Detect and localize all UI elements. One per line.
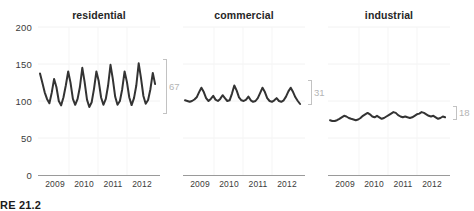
y-tick-label-0: 0 [27,171,32,181]
panel-title-commercial: commercial [183,9,305,21]
x-axis-residential: 2009 2010 2011 2012 [38,175,160,191]
gridlines-residential [38,27,160,175]
panel-commercial: commercial 2009 2010 2011 2012 [183,0,305,190]
y-axis: 200 150 100 50 0 [0,0,36,190]
x-tick-label-residential-2010: 2010 [74,179,94,189]
plot-area-residential [38,27,160,175]
y-tick-label-50: 50 [21,134,32,144]
x-axis-line-residential [38,175,160,176]
x-tick-label-residential-2011: 2011 [103,179,122,189]
x-axis-industrial: 2009 2010 2011 2012 [328,175,450,191]
range-value-commercial: 31 [314,88,325,98]
x-tick-label-industrial-2011: 2011 [393,179,412,189]
range-value-residential: 67 [169,82,180,92]
panel-industrial: industrial 2009 2010 2011 2012 [328,0,450,190]
x-axis-line-industrial [328,175,450,176]
panel-title-residential: residential [38,9,160,21]
x-tick-label-commercial-2011: 2011 [248,179,267,189]
chart-svg-industrial [328,27,450,175]
y-tick-label-150: 150 [16,60,32,70]
range-value-industrial: 18 [459,108,470,118]
x-axis-commercial: 2009 2010 2011 2012 [183,175,305,191]
panel-title-industrial: industrial [328,9,450,21]
plot-area-industrial [328,27,450,175]
y-tick-label-200: 200 [16,23,32,33]
chart-svg-residential [38,27,160,175]
plot-area-commercial [183,27,305,175]
figure-small-multiples: 200 150 100 50 0 residential [0,0,474,211]
x-tick-label-commercial-2009: 2009 [190,179,210,189]
x-tick-label-commercial-2012: 2012 [277,179,297,189]
x-tick-label-commercial-2010: 2010 [219,179,239,189]
range-bracket-industrial [453,106,457,120]
x-tick-label-industrial-2009: 2009 [335,179,355,189]
x-axis-line-commercial [183,175,305,176]
range-bracket-commercial [308,80,312,105]
chart-svg-commercial [183,27,305,175]
range-bracket-residential [163,59,167,114]
x-tick-label-residential-2012: 2012 [132,179,152,189]
panel-residential: residential 2009 2010 2011 2012 [38,0,160,190]
figure-caption: RE 21.2 [0,199,41,211]
gridlines-industrial [328,27,450,175]
y-tick-label-100: 100 [16,97,32,107]
x-tick-label-industrial-2012: 2012 [422,179,442,189]
x-tick-label-industrial-2010: 2010 [364,179,384,189]
x-tick-label-residential-2009: 2009 [45,179,65,189]
